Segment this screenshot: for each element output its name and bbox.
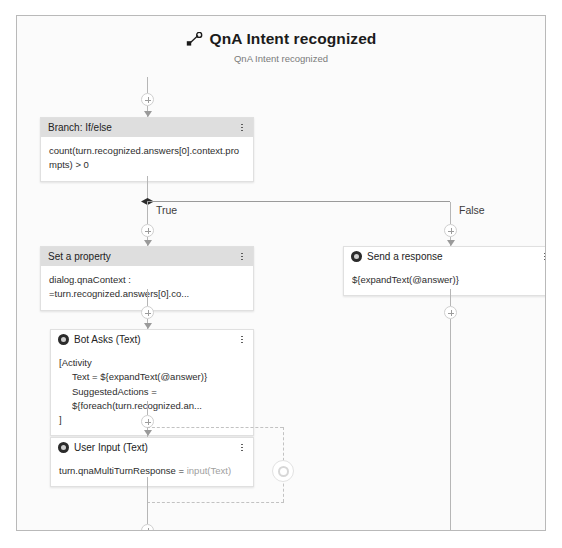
connector-setprop-top xyxy=(147,289,148,306)
branch-label-true: True xyxy=(156,204,177,216)
loop-dash-top xyxy=(147,427,283,428)
add-node-button-4[interactable] xyxy=(141,524,154,531)
bot-asks-body-line-2: Text = ${expandText(@answer)} xyxy=(59,370,245,384)
loop-dash-bottom xyxy=(147,502,284,503)
connector-false-long xyxy=(450,319,451,530)
send-response-more-options-icon[interactable] xyxy=(540,250,546,263)
bot-asks-card-header[interactable]: Bot Asks (Text) xyxy=(51,330,253,349)
loop-glyph-icon xyxy=(278,466,289,477)
branch-card-title: Branch: If/else xyxy=(48,122,237,133)
connector-true-top xyxy=(147,202,148,224)
connector-false-after-send-top xyxy=(450,289,451,306)
node-send-a-response[interactable]: Send a response ${expandText(@answer)} xyxy=(343,246,546,296)
arrow-to-user-input xyxy=(144,430,152,436)
bot-asks-icon xyxy=(58,334,69,345)
user-input-card-header[interactable]: User Input (Text) xyxy=(51,438,253,457)
user-input-card-title: User Input (Text) xyxy=(74,442,237,453)
screenshot-root: QnA Intent recognized QnA Intent recogni… xyxy=(0,0,562,548)
branch-more-options-icon[interactable] xyxy=(237,121,247,134)
set-property-more-options-icon[interactable] xyxy=(237,250,247,263)
user-input-more-options-icon[interactable] xyxy=(237,441,247,454)
page-title: QnA Intent recognized xyxy=(210,30,377,48)
trigger-subtitle: QnA Intent recognized xyxy=(17,53,545,64)
send-response-card-header[interactable]: Send a response xyxy=(344,247,546,266)
add-node-button-false-2[interactable] xyxy=(444,306,457,319)
dialog-flow-canvas[interactable]: QnA Intent recognized QnA Intent recogni… xyxy=(16,15,546,531)
bot-asks-card-title: Bot Asks (Text) xyxy=(74,334,237,345)
loop-node-icon[interactable] xyxy=(272,460,294,482)
connector-botasks-top xyxy=(147,401,148,415)
user-input-icon xyxy=(58,442,69,453)
trigger-title-row: QnA Intent recognized xyxy=(186,30,377,48)
node-branch-ifelse[interactable]: Branch: If/else count(turn.recognized.an… xyxy=(40,117,254,182)
user-input-value: input(Text) xyxy=(187,465,231,476)
set-property-card-header[interactable]: Set a property xyxy=(41,247,253,266)
connector-false-top xyxy=(450,202,451,224)
connector-userinput-bottom xyxy=(147,477,148,524)
node-user-input-text[interactable]: User Input (Text) turn.qnaMultiTurnRespo… xyxy=(50,437,254,487)
add-node-button-false[interactable] xyxy=(444,224,457,237)
send-response-icon xyxy=(351,251,362,262)
connector-branch-to-diamond xyxy=(147,176,148,200)
add-node-button-2[interactable] xyxy=(141,306,154,319)
set-property-card-title: Set a property xyxy=(48,251,237,262)
bot-asks-body-line-3: SuggestedActions = ${foreach(turn.recogn… xyxy=(59,385,245,414)
bot-asks-body-line-1: [Activity xyxy=(59,357,92,368)
branch-card-header[interactable]: Branch: If/else xyxy=(41,118,253,137)
user-input-property: turn.qnaMultiTurnResponse = xyxy=(59,465,187,476)
send-response-card-body: ${expandText(@answer)} xyxy=(344,266,546,295)
user-input-card-body: turn.qnaMultiTurnResponse = input(Text) xyxy=(51,457,253,486)
branch-card-body: count(turn.recognized.answers[0].context… xyxy=(41,137,253,181)
add-node-button-1[interactable] xyxy=(141,93,154,106)
add-node-button-true[interactable] xyxy=(141,224,154,237)
bot-asks-body-line-4: ] xyxy=(59,414,62,425)
connector-branch-split xyxy=(147,201,450,202)
trigger-node-icon xyxy=(186,32,204,48)
connector-trigger-top xyxy=(147,77,148,93)
bot-asks-more-options-icon[interactable] xyxy=(237,333,247,346)
send-response-card-title: Send a response xyxy=(367,251,540,262)
trigger-header: QnA Intent recognized QnA Intent recogni… xyxy=(17,30,545,64)
branch-label-false: False xyxy=(459,204,485,216)
